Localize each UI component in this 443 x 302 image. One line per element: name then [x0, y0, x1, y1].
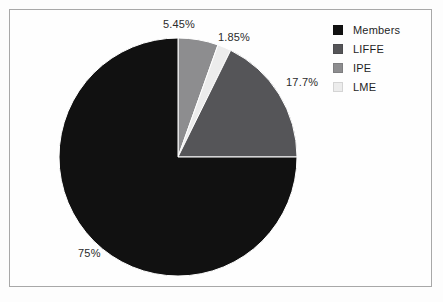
- legend-swatch-lme: [333, 82, 343, 92]
- legend-label: IPE: [353, 62, 371, 74]
- legend-label: Members: [353, 24, 400, 36]
- slice-label-ipe: 5.45%: [163, 18, 195, 30]
- legend-item-ipe[interactable]: IPE: [333, 62, 400, 74]
- legend-swatch-ipe: [333, 63, 343, 73]
- legend-swatch-members: [333, 25, 343, 35]
- slice-label-lme: 1.85%: [218, 31, 250, 43]
- legend-item-members[interactable]: Members: [333, 24, 400, 36]
- legend-swatch-liffe: [333, 44, 343, 54]
- slice-label-liffe: 17.7%: [286, 76, 318, 88]
- pie-slice-group: [59, 38, 297, 276]
- legend-item-liffe[interactable]: LIFFE: [333, 43, 400, 55]
- chart-legend: MembersLIFFEIPELME: [333, 24, 400, 93]
- legend-item-lme[interactable]: LME: [333, 81, 400, 93]
- pie-chart-figure: 5.45% 1.85% 17.7% 75% MembersLIFFEIPELME: [0, 0, 443, 302]
- plot-area: 5.45% 1.85% 17.7% 75% MembersLIFFEIPELME: [0, 0, 443, 302]
- legend-label: LME: [353, 81, 376, 93]
- slice-label-members: 75%: [78, 247, 101, 259]
- legend-label: LIFFE: [353, 43, 384, 55]
